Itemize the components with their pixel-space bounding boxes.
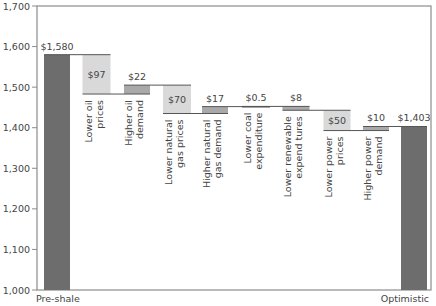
- category-label: Lower renewable: [282, 116, 293, 197]
- category-label: gas demand: [212, 120, 223, 179]
- category-label: Higher natural: [201, 120, 212, 189]
- bar-lower-renewable-expend-tures: [283, 106, 310, 110]
- y-tick-label: 1,200: [3, 203, 30, 214]
- value-label: $70: [168, 94, 186, 105]
- bar-higher-natural-gas-demand: [202, 107, 228, 114]
- category-label: demand: [373, 137, 384, 176]
- category-label: Pre-shale: [36, 293, 80, 304]
- chart-labels: $1,580Pre-shale$97Lower oilprices$22High…: [36, 41, 431, 304]
- bar-higher-power-demand: [363, 126, 389, 130]
- value-label: $17: [206, 93, 224, 104]
- bar-optimistic: [401, 126, 427, 290]
- y-tick-label: 1,600: [3, 41, 30, 52]
- bar-pre-shale: [44, 55, 70, 290]
- value-label: $1,580: [40, 41, 73, 52]
- y-tick-label: 1,700: [3, 1, 30, 12]
- category-label: Lower oil: [83, 100, 94, 143]
- value-label: $97: [87, 69, 105, 80]
- category-label: Lower power: [323, 136, 334, 197]
- category-label: prices: [334, 137, 345, 166]
- category-label: expend tures: [293, 116, 304, 179]
- y-tick-label: 1,500: [3, 82, 30, 93]
- category-label: Lower natural: [163, 120, 174, 185]
- value-label: $0.5: [245, 92, 266, 103]
- category-label: prices: [94, 100, 105, 129]
- value-label: $22: [128, 71, 146, 82]
- category-label: Lower coal: [242, 113, 253, 164]
- y-tick-label: 1,300: [3, 163, 30, 174]
- value-label: $50: [328, 115, 346, 126]
- category-label: Higher power: [362, 136, 373, 200]
- waterfall-chart: 1,0001,1001,2001,3001,4001,5001,6001,700…: [0, 0, 436, 306]
- y-tick-label: 1,100: [3, 244, 30, 255]
- category-label: gas prices: [174, 119, 185, 167]
- value-label: $8: [290, 92, 302, 103]
- category-label: demand: [134, 100, 145, 139]
- value-label: $1,403: [397, 112, 430, 123]
- y-tick-label: 1,000: [3, 285, 30, 296]
- value-label: $10: [367, 112, 385, 123]
- category-label: expenditure: [253, 112, 264, 169]
- y-tick-label: 1,400: [3, 122, 30, 133]
- category-label: Optimistic: [381, 293, 429, 304]
- category-label: Higher oil: [123, 100, 134, 146]
- bar-higher-oil-demand: [124, 85, 150, 94]
